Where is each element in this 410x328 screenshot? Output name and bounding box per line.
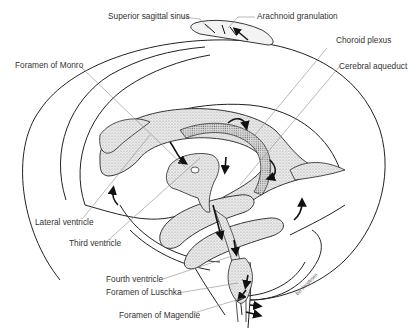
label-arachnoid-granulation: Arachnoid granulation [257,11,338,21]
label-third-ventricle: Third ventricle [69,238,121,248]
cerebrospinal-fluid-diagram [0,0,410,328]
label-fourth-ventricle: Fourth ventricle [106,274,163,284]
label-foramen-of-magendie: Foramen of Magendie [119,310,200,320]
label-lateral-ventricle: Lateral ventricle [35,217,94,227]
label-foramen-of-luschka: Foramen of Luschka [106,287,182,297]
interthalamic-adhesion [191,167,199,173]
label-choroid-plexus: Choroid plexus [336,35,391,45]
label-foramen-of-monro: Foramen of Monro [15,60,83,70]
label-superior-sagittal-sinus: Superior sagittal sinus [108,11,190,21]
label-cerebral-aqueduct: Cerebral aqueduct [339,61,407,71]
